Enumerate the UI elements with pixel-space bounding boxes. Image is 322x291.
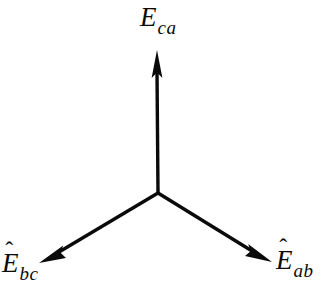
symbol-subscript-ab: ab: [294, 261, 314, 280]
vector-canvas: [0, 0, 322, 291]
symbol-e-hat-bc: E ˆ: [2, 250, 19, 277]
arrowhead-bc: [39, 246, 66, 263]
vector-shaft-ca: [157, 72, 158, 193]
arrowhead-ab: [245, 244, 272, 262]
symbol-e-hat-ab: E ˆ: [276, 247, 293, 274]
vector-label-ca: E ˆ ca: [140, 4, 175, 31]
vector-shaft-bc: [59, 193, 158, 252]
vector-shaft-ab: [158, 193, 252, 251]
symbol-e-hat-ca: E ˆ: [140, 4, 157, 31]
vector-label-bc: E ˆ bc: [2, 250, 37, 277]
phasor-diagram-figure: E ˆ ca E ˆ bc E ˆ ab: [0, 0, 322, 291]
vector-label-ab: E ˆ ab: [276, 247, 313, 274]
symbol-subscript-bc: bc: [20, 264, 39, 283]
circumflex-hat-icon: ˆ: [143, 0, 151, 16]
circumflex-hat-icon: ˆ: [279, 235, 287, 259]
symbol-subscript-ca: ca: [158, 18, 177, 37]
circumflex-hat-icon: ˆ: [5, 238, 13, 262]
